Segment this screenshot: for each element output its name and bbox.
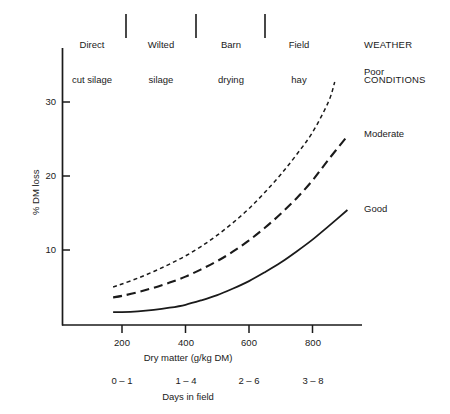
y-tick-label-10: 10 (38, 244, 56, 256)
y-tick-label-30: 30 (38, 96, 56, 108)
days-axis-title: Days in field (142, 391, 234, 403)
x-tick-label-400: 400 (168, 337, 204, 349)
x-axis-title: Dry matter (g/kg DM) (124, 352, 252, 364)
stage-label-field-hay: Field hay (272, 16, 326, 108)
x-tick-label-800: 800 (295, 337, 331, 349)
days-label-400: 1 – 4 (166, 375, 206, 387)
y-axis-title: % DM loss (30, 170, 41, 215)
legend-label-moderate: Moderate (364, 128, 404, 140)
chart-figure: Direct cut silage Wilted silage Barn dry… (0, 0, 450, 414)
stage-label-direct-cut-silage: Direct cut silage (60, 16, 124, 108)
x-tick-label-600: 600 (231, 337, 267, 349)
legend-title: WEATHER CONDITIONS (364, 16, 426, 108)
days-label-200: 0 – 1 (102, 375, 142, 387)
legend-label-poor: Poor (364, 66, 384, 78)
days-label-800: 3 – 8 (293, 375, 333, 387)
days-label-600: 2 – 6 (229, 375, 269, 387)
legend-label-good: Good (364, 203, 387, 215)
x-tick-label-200: 200 (104, 337, 140, 349)
stage-label-barn-drying: Barn drying (202, 16, 260, 108)
stage-label-wilted-silage: Wilted silage (132, 16, 190, 108)
